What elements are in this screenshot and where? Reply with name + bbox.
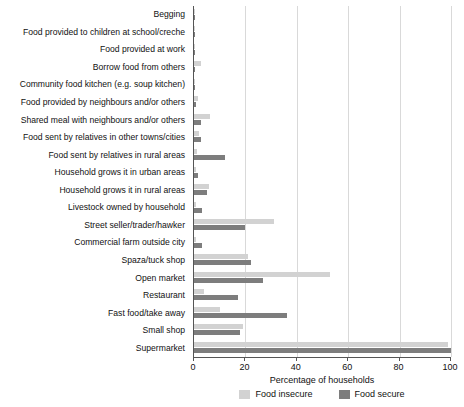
category-label: Household grows it in urban areas	[0, 167, 185, 177]
category-label: Spaza/tuck shop	[0, 255, 185, 265]
bar-food-insecure	[194, 324, 243, 329]
x-axis-tick-label: 40	[291, 362, 301, 372]
bar-food-secure	[194, 50, 195, 55]
bar-food-secure	[194, 243, 202, 248]
bar-food-insecure	[194, 149, 197, 154]
category-label: Food sent by relatives in rural areas	[0, 150, 185, 160]
bar-group	[194, 252, 451, 270]
bar-group	[194, 6, 451, 24]
bar-group	[194, 24, 451, 42]
bar-food-secure	[194, 278, 263, 283]
bar-food-insecure	[194, 184, 209, 189]
category-label: Food provided to children at school/crec…	[0, 27, 185, 37]
category-label: Food provided by neighbours and/or other…	[0, 97, 185, 107]
bar-food-insecure	[194, 289, 204, 294]
bar-food-secure	[194, 295, 238, 300]
bar-group	[194, 287, 451, 305]
bar-food-secure	[194, 85, 195, 90]
x-axis-tick	[399, 357, 400, 361]
bar-food-secure	[194, 15, 195, 20]
x-axis-tick	[193, 357, 194, 361]
bar-group	[194, 129, 451, 147]
category-label: Commercial farm outside city	[0, 237, 185, 247]
bar-food-insecure	[194, 44, 195, 49]
legend-swatch-icon	[239, 390, 250, 399]
category-label: Community food kitchen (e.g. soup kitche…	[0, 79, 185, 89]
category-label: Fast food/take away	[0, 308, 185, 318]
x-axis-tick-label: 0	[190, 362, 195, 372]
bar-food-secure	[194, 260, 251, 265]
legend-swatch-icon	[339, 390, 350, 399]
x-axis-tick-label: 100	[442, 362, 457, 372]
bar-group	[194, 339, 451, 357]
bar-group	[194, 234, 451, 252]
bar-food-insecure	[194, 96, 198, 101]
bar-food-secure	[194, 348, 451, 353]
category-label: Restaurant	[0, 290, 185, 300]
bar-food-insecure	[194, 131, 199, 136]
x-axis-title: Percentage of households	[193, 375, 451, 385]
bar-food-secure	[194, 208, 202, 213]
bar-group	[194, 164, 451, 182]
bar-food-secure	[194, 137, 201, 142]
category-label: Food sent by relatives in other towns/ci…	[0, 132, 185, 142]
x-axis-tick-label: 60	[342, 362, 352, 372]
bar-group	[194, 182, 451, 200]
category-label: Small shop	[0, 325, 185, 335]
bar-food-insecure	[194, 167, 196, 172]
x-axis-tick-label: 20	[239, 362, 249, 372]
bar-food-insecure	[194, 114, 210, 119]
bar-food-insecure	[194, 219, 274, 224]
bar-food-insecure	[194, 272, 330, 277]
category-axis-labels: BeggingFood provided to children at scho…	[0, 6, 189, 357]
category-label: Food provided at work	[0, 44, 185, 54]
bar-chart: BeggingFood provided to children at scho…	[0, 0, 464, 407]
legend-label: Food secure	[355, 389, 405, 399]
bar-food-insecure	[194, 9, 195, 14]
bar-group	[194, 41, 451, 59]
bar-food-secure	[194, 190, 207, 195]
bar-food-secure	[194, 32, 195, 37]
bar-food-insecure	[194, 61, 201, 66]
x-axis-line	[193, 357, 451, 358]
legend-item-food-secure: Food secure	[339, 389, 405, 399]
bar-group	[194, 76, 451, 94]
category-label: Borrow food from others	[0, 62, 185, 72]
bar-food-insecure	[194, 254, 248, 259]
category-label: Street seller/trader/hawker	[0, 220, 185, 230]
category-label: Household grows it in rural areas	[0, 185, 185, 195]
category-label: Shared meal with neighbours and/or other…	[0, 115, 185, 125]
x-axis-tick-label: 80	[394, 362, 404, 372]
bar-food-insecure	[194, 79, 195, 84]
bar-group	[194, 94, 451, 112]
gridline	[451, 6, 452, 357]
bar-food-secure	[194, 313, 287, 318]
bar-food-insecure	[194, 237, 196, 242]
category-label: Livestock owned by household	[0, 202, 185, 212]
x-axis-tick	[347, 357, 348, 361]
bar-food-insecure	[194, 342, 448, 347]
bar-food-insecure	[194, 26, 195, 31]
legend-label: Food insecure	[255, 389, 312, 399]
bar-food-secure	[194, 102, 196, 107]
plot-area	[193, 6, 451, 357]
bar-group	[194, 59, 451, 77]
bar-group	[194, 217, 451, 235]
bar-group	[194, 199, 451, 217]
bar-group	[194, 269, 451, 287]
bar-group	[194, 322, 451, 340]
bar-food-secure	[194, 225, 245, 230]
category-label: Open market	[0, 273, 185, 283]
bar-food-secure	[194, 120, 201, 125]
bar-food-secure	[194, 330, 240, 335]
bar-food-secure	[194, 155, 225, 160]
bar-food-secure	[194, 67, 195, 72]
bar-group	[194, 146, 451, 164]
bar-food-insecure	[194, 307, 220, 312]
x-axis-tick	[244, 357, 245, 361]
bar-food-secure	[194, 173, 198, 178]
chart-legend: Food insecure Food secure	[193, 389, 451, 399]
bar-food-insecure	[194, 202, 196, 207]
bar-group	[194, 111, 451, 129]
x-axis-tick	[450, 357, 451, 361]
